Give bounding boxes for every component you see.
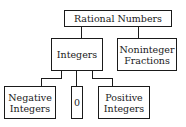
connector-root-integers	[81, 26, 82, 38]
node-label: Integers	[57, 49, 97, 60]
node-label-line2: Integers	[104, 103, 144, 114]
connector-integers-negative-v	[41, 78, 42, 86]
node-positive-integers: Positive Integers	[98, 86, 150, 119]
connector-integers-positive-h	[92, 78, 113, 79]
connector-integers-zero	[76, 70, 77, 86]
connector-integers-negative-h	[41, 78, 62, 79]
node-label-line2: Integers	[10, 103, 50, 114]
node-rational-numbers: Rational Numbers	[64, 10, 172, 27]
connector-root-noninteger	[138, 26, 139, 38]
connector-integers-negative	[61, 70, 62, 78]
node-label: Rational Numbers	[74, 13, 162, 24]
node-integers: Integers	[51, 38, 103, 71]
node-negative-integers: Negative Integers	[4, 86, 56, 119]
node-label-line2: Fractions	[124, 55, 170, 66]
node-label-line1: Positive	[105, 92, 143, 103]
node-noninteger-fractions: Noninteger Fractions	[117, 38, 177, 71]
node-label-line1: Negative	[8, 92, 52, 103]
node-zero: 0	[71, 86, 83, 119]
node-label: 0	[74, 97, 80, 108]
node-label-line1: Noninteger	[120, 44, 175, 55]
connector-integers-positive	[92, 70, 93, 78]
connector-integers-positive-v	[112, 78, 113, 86]
